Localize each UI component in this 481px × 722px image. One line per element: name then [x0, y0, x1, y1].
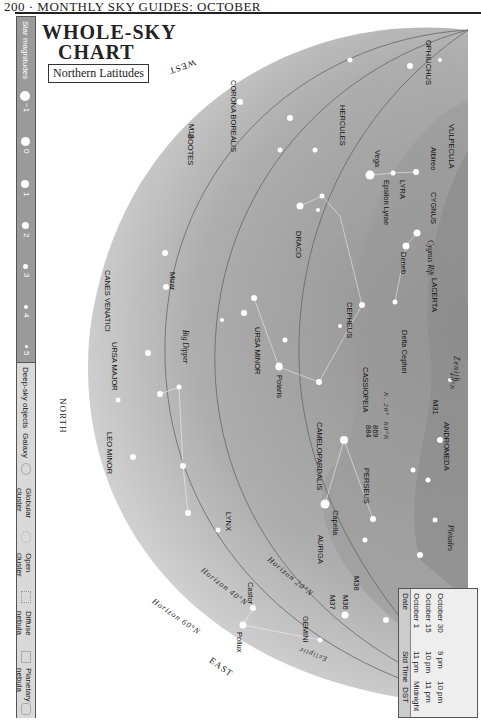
label-polaris: Polaris	[275, 375, 283, 398]
cell-std: 11 pm	[412, 651, 421, 673]
magnitude-dot	[21, 137, 30, 146]
direction-north: NORTH	[58, 398, 68, 433]
label-camelopardalis: CAMELOPARDALIS	[315, 422, 323, 490]
chart-subtitle: Northern Latitudes	[48, 64, 149, 83]
open-cluster-label: Open cluster	[19, 553, 33, 587]
label-vulpecula: VULPECULA	[447, 124, 455, 169]
label-mizar: Mizar	[168, 272, 176, 290]
label-albireo: Albireo	[429, 147, 437, 170]
zenith-60n-label: 60°N	[382, 422, 390, 440]
zenith-40n-label: 40°N	[448, 372, 456, 390]
magnitude-label: 1	[22, 192, 31, 196]
title-line-1: Whole-sky	[42, 22, 177, 42]
label-canes-venatici: CANES VENATICI	[95, 270, 111, 332]
globular-cluster-icon	[21, 531, 31, 543]
magnitude-dot	[22, 222, 29, 229]
cell-date: October 15	[424, 593, 433, 633]
cell-dst: Midnight	[412, 681, 421, 711]
globular-cluster-label: Globular cluster	[19, 488, 33, 528]
legend-strip: Star magnitudes −1 0 1 2 3 4 5 Deep-sky …	[16, 16, 36, 718]
header-dst: DST	[401, 687, 410, 703]
label-m37: M37	[328, 595, 336, 610]
label-leo-minor: LEO MINOR	[97, 432, 113, 474]
zenith-20n-label: N. 20°	[382, 392, 390, 416]
galaxy-label: Galaxy	[21, 433, 30, 458]
label-ophiuchus: OPHIUCHUS	[424, 40, 432, 85]
magnitude-dot	[23, 264, 28, 269]
label-hercules: HERCULES	[338, 105, 346, 146]
label-cepheus: CEPHEUS	[345, 302, 353, 338]
star-magnitudes-panel: Star magnitudes −1 0 1 2 3 4 5	[17, 17, 35, 362]
title-line-2: Chart	[42, 42, 177, 62]
label-auriga: AURIGA	[316, 535, 324, 564]
label-lyra: LYRA	[398, 180, 406, 199]
magnitude-label: 2	[22, 233, 31, 237]
label-perseus: PERSEUS	[362, 468, 370, 504]
magnitude-dot	[20, 91, 30, 101]
label-cassiopeia: CASSIOPEIA	[361, 367, 369, 412]
planetary-nebula-label: Planetary nebula	[19, 668, 33, 704]
cell-date: October 30	[436, 593, 445, 633]
label-castor: Castor	[246, 582, 254, 604]
cell-dst: 10 pm	[436, 681, 445, 703]
magnitude-label: 4	[22, 313, 31, 317]
diffuse-nebula-icon	[21, 651, 31, 663]
label-epsilon-lyrae: Epsilon Lyrae	[382, 180, 390, 225]
table-row: October 30 9 pm 10 pm	[435, 589, 445, 717]
magnitude-label: 0	[22, 149, 31, 153]
magnitude-label: 5	[22, 351, 31, 355]
label-delta-cephei: Delta Cephei	[394, 330, 408, 373]
label-m36: M36	[341, 595, 349, 610]
label-pollux: Pollux	[235, 632, 243, 652]
label-ursa-major: URSA MAJOR	[102, 342, 118, 391]
chart-title: Whole-sky Chart	[42, 22, 177, 62]
label-vega: Vega	[373, 150, 381, 167]
label-draco: DRACO	[294, 231, 302, 258]
magnitude-label: −1	[22, 103, 31, 112]
header-std-time: Std Time	[401, 651, 410, 683]
label-capella: Capella	[331, 510, 339, 535]
galaxy-icon	[21, 463, 31, 475]
table-header-row: Date Std Time DST	[399, 589, 411, 717]
cell-date: October 1	[412, 593, 421, 628]
label-lynx: LYNX	[224, 512, 232, 531]
label-cygnus-rift: Cygnus Rift	[420, 240, 434, 275]
label-bootes: BOOTES	[186, 134, 194, 165]
cell-std: 9 pm	[436, 651, 445, 669]
magnitude-dot	[21, 180, 29, 188]
label-deneb: Deneb	[399, 252, 407, 274]
label-m31: M31	[431, 400, 439, 415]
diffuse-nebula-label: Diffuse nebula	[19, 611, 33, 647]
cell-dst: 11 pm	[424, 681, 433, 703]
label-lacerta: LACERTA	[430, 278, 438, 312]
label-m38: M38	[352, 576, 360, 591]
label-andromeda: ANDROMEDA	[442, 422, 450, 471]
deep-sky-panel: Deep-sky objects Galaxy Globular cluster…	[17, 362, 35, 718]
star-magnitudes-label: Star magnitudes	[21, 21, 30, 79]
magnitude-label: 3	[22, 273, 31, 277]
label-big-dipper: Big Dipper	[181, 330, 189, 364]
label-gemini: GEMINI	[301, 616, 309, 643]
table-row: October 1 11 pm Midnight	[411, 589, 421, 717]
cell-std: 10 pm	[424, 651, 433, 673]
label-ursa-minor: URSA MINOR	[245, 327, 261, 375]
viewing-times-table: Date Std Time DST October 1 11 pm Midnig…	[398, 588, 478, 718]
label-m13: M13	[187, 124, 195, 139]
deep-sky-label: Deep-sky objects	[21, 367, 30, 428]
label-pleiades: Pleiades	[446, 525, 454, 551]
label-ngc-884: 884	[364, 425, 372, 438]
table-row: October 15 10 pm 11 pm	[423, 589, 433, 717]
label-cygnus: CYGNUS	[429, 192, 437, 224]
open-cluster-icon	[21, 591, 31, 603]
label-corona-borealis: CORONA BOREALIS	[221, 80, 237, 152]
magnitude-dot	[25, 345, 28, 348]
magnitude-dot	[24, 305, 28, 309]
planetary-nebula-icon	[21, 703, 31, 715]
header-date: Date	[401, 593, 410, 610]
